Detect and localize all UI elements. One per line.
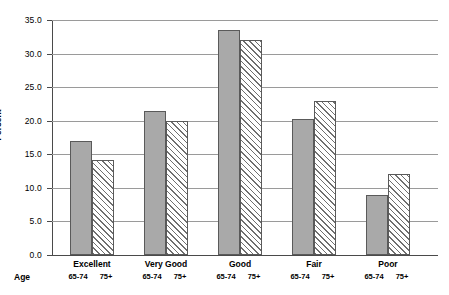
y-axis-tick-label: 35.0 [8, 15, 42, 25]
x-axis-sublabel: 65-74 [64, 272, 92, 281]
bar-chart: Percent Age 0.05.010.015.020.025.030.035… [0, 0, 449, 295]
x-axis-sublabel: 65-74 [212, 272, 240, 281]
x-axis-sublabel: 75+ [240, 272, 268, 281]
x-axis-sublabels: 65-7475+ [138, 272, 194, 281]
y-axis-tick [47, 87, 52, 88]
y-axis-tick [47, 255, 52, 256]
bar-very-good-65-74 [144, 111, 166, 255]
x-axis-group-label: Fair [306, 259, 322, 269]
y-axis-tick [47, 121, 52, 122]
y-axis-tick [47, 20, 52, 21]
bar-very-good-75+ [166, 121, 188, 255]
x-axis-group-label: Good [229, 259, 251, 269]
y-axis-tick-label: 15.0 [8, 149, 42, 159]
y-axis-tick-label: 20.0 [8, 116, 42, 126]
plot-area [52, 20, 438, 255]
x-axis-sublabel: 65-74 [360, 272, 388, 281]
bar-poor-75+ [388, 174, 410, 255]
x-axis-group-label: Poor [378, 259, 397, 269]
gridline [52, 20, 438, 21]
bar-fair-75+ [314, 101, 336, 255]
bar-excellent-65-74 [70, 141, 92, 255]
bar-fair-65-74 [292, 119, 314, 255]
y-axis-tick-label: 25.0 [8, 82, 42, 92]
bar-excellent-75+ [92, 160, 114, 255]
y-axis-tick-label: 10.0 [8, 183, 42, 193]
y-axis-tick [47, 54, 52, 55]
y-axis-tick-label: 30.0 [8, 49, 42, 59]
x-axis-sublabels: 65-7475+ [212, 272, 268, 281]
x-axis-sublabels: 65-7475+ [64, 272, 120, 281]
y-axis-tick-label: 5.0 [8, 216, 42, 226]
y-axis-tick [47, 188, 52, 189]
y-axis-tick-label: 0.0 [8, 250, 42, 260]
x-axis-group-label: Very Good [145, 259, 188, 269]
y-axis-tick [47, 154, 52, 155]
bar-poor-65-74 [366, 195, 388, 255]
bar-good-75+ [240, 40, 262, 255]
x-axis-sublabel: 75+ [388, 272, 416, 281]
x-axis-sublabel: 75+ [314, 272, 342, 281]
bar-good-65-74 [218, 30, 240, 255]
x-axis-title: Age [14, 272, 30, 282]
x-axis-sublabel: 65-74 [286, 272, 314, 281]
x-axis-sublabel: 65-74 [138, 272, 166, 281]
x-axis-sublabel: 75+ [92, 272, 120, 281]
x-axis-sublabels: 65-7475+ [286, 272, 342, 281]
x-axis-group-label: Excellent [73, 259, 110, 269]
y-axis-tick [47, 221, 52, 222]
y-axis-title: Percent [0, 109, 3, 140]
x-axis-sublabels: 65-7475+ [360, 272, 416, 281]
x-axis-sublabel: 75+ [166, 272, 194, 281]
x-axis-line [52, 255, 438, 256]
